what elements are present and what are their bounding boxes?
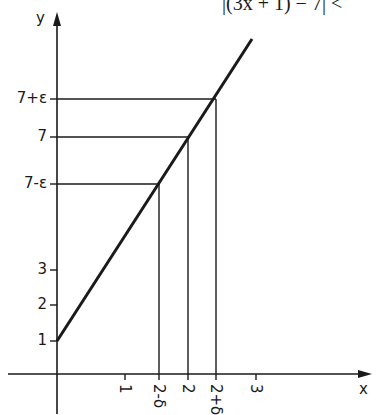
- x-tick-label: 2: [180, 384, 196, 394]
- y-tick-label: 1: [7, 332, 47, 348]
- y-tick-label: 7-ε: [7, 175, 47, 191]
- y-tick-label: 2: [7, 296, 47, 312]
- y-axis-label: y: [36, 9, 45, 27]
- x-tick-label: 3: [248, 384, 264, 394]
- y-tick-label: 7: [7, 128, 47, 144]
- x-ticks: [125, 374, 256, 380]
- x-axis-label: x: [359, 380, 368, 398]
- y-ticks: [50, 99, 57, 341]
- x-axis-arrow-icon: [358, 370, 372, 378]
- guide-lines: [57, 99, 216, 374]
- y-tick-label: 7+ε: [7, 90, 47, 106]
- function-line: [57, 39, 252, 341]
- x-tick-label: 1: [117, 384, 133, 394]
- y-tick-label: 3: [7, 261, 47, 277]
- x-tick-label: 2-δ: [151, 384, 167, 408]
- x-tick-label: 2+δ: [208, 384, 224, 415]
- y-axis-arrow-icon: [53, 12, 61, 26]
